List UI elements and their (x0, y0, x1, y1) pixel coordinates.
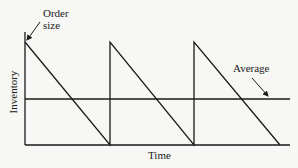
x-axis-label: Time (148, 149, 171, 161)
average-label: Average (233, 62, 269, 74)
order-size-arrow (27, 22, 40, 40)
order-size-label: Order size (43, 7, 69, 31)
inventory-sawtooth-line (25, 42, 280, 145)
order-size-label-line1: Order (43, 7, 69, 19)
y-axis-label: Inventory (7, 67, 19, 117)
order-size-label-line2: size (43, 19, 69, 31)
average-arrow (252, 78, 268, 96)
